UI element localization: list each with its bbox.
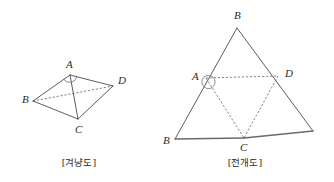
edge-Bleft-C-base <box>175 138 244 139</box>
vertex-label-A-net: A <box>191 70 199 82</box>
edge-A-B <box>33 75 70 101</box>
vertex-label-B-left-net: B <box>163 134 170 146</box>
vertex-label-B-top-net: B <box>234 9 241 21</box>
vertex-label-C-net: C <box>240 141 248 153</box>
edge-C-D <box>78 86 113 119</box>
isometric-view-group: A B C D [겨냥도] <box>22 58 126 168</box>
fold-edge-A-D <box>206 76 278 78</box>
caption-net-view: [전개도] <box>228 157 262 168</box>
vertex-label-D-isometric: D <box>117 74 126 86</box>
vertex-label-D-net: D <box>284 67 293 79</box>
net-view-group: B A D B C [전개도] <box>163 9 313 168</box>
vertex-label-A-isometric: A <box>65 58 73 70</box>
caption-isometric-view: [겨냥도] <box>62 157 96 168</box>
fold-edge-A-C <box>206 78 244 138</box>
vertex-label-C-isometric: C <box>75 123 83 135</box>
edge-Bleft-Btop <box>175 28 237 139</box>
vertex-label-B-isometric: B <box>22 93 29 105</box>
edge-Btop-Bright <box>237 28 313 131</box>
fold-edge-D-C <box>244 76 278 138</box>
edge-C-Bright-base <box>244 131 313 138</box>
edge-B-C <box>33 101 78 119</box>
geometry-figure-canvas: A B C D [겨냥도] B A D B C [전개도] <box>0 0 334 182</box>
